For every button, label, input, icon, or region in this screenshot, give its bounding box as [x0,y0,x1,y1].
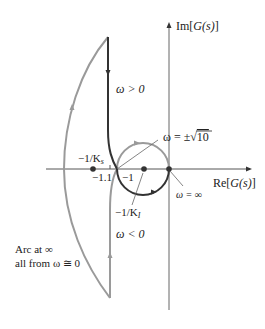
tick-label-minus-1-1: −1.1 [92,171,112,183]
label-omega-sqrt10: ω = ±√10 [163,130,209,144]
pos-branch-arrow-icon [106,70,111,76]
real-axis-label: Re[G(s)] [213,176,256,190]
label-minus-1-over-Ks: −1/Ks [78,152,104,166]
arc-note-line2: all from ω ≅ 0 [15,257,81,269]
real-axis-arrow-icon [246,167,252,172]
arc-note-line1: Arc at ∞ [15,243,53,255]
circle-bottom-arrow-icon [151,190,157,195]
point-origin [166,166,172,172]
neg-branch-arrow-icon [108,252,113,258]
label-omega-negative: ω < 0 [116,227,145,241]
label-omega-infinity: ω = ∞ [176,189,202,200]
tick-label-minus-1: −1 [122,171,134,183]
point-minus-1-over-KI [141,166,147,172]
circle-top-arrow-icon [134,141,140,146]
label-minus-1-over-KI: −1/KI [115,206,141,220]
label-omega-positive: ω > 0 [116,82,145,96]
imag-axis-label: Im[G(s)] [176,19,219,33]
imag-axis-arrow-icon [167,22,172,28]
nyquist-diagram: Im[G(s)] Re[G(s)] −1.1 −1 −1/Ks −1/KI ω … [0,0,265,329]
